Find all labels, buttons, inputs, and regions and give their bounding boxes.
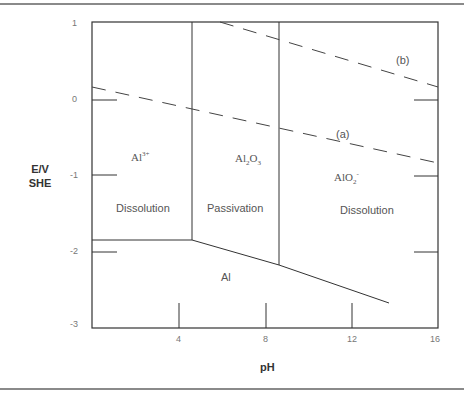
y-tick-label-minus1: -1 bbox=[70, 170, 78, 180]
y-axis-title-line1: E/V bbox=[25, 162, 55, 176]
label-al2o3: Al2O3 bbox=[235, 152, 261, 167]
y-tick-label-minus2: -2 bbox=[70, 246, 78, 256]
label-dissolution-right: Dissolution bbox=[340, 204, 394, 216]
label-dissolution-left: Dissolution bbox=[116, 202, 170, 214]
y-tick-label-0: 0 bbox=[72, 94, 77, 104]
label-line-a: (a) bbox=[336, 128, 349, 140]
alo2-charge: - bbox=[356, 170, 358, 178]
x-tick-label-8: 8 bbox=[263, 334, 268, 344]
y-tick-label-minus3: -3 bbox=[70, 319, 78, 329]
y-axis-title-line2: SHE bbox=[25, 176, 55, 190]
al3-charge: 3+ bbox=[142, 150, 149, 158]
label-passivation: Passivation bbox=[207, 202, 263, 214]
label-alo2minus: AlO2- bbox=[334, 170, 359, 186]
label-al: Al bbox=[221, 271, 231, 283]
x-tick-label-12: 12 bbox=[347, 334, 357, 344]
x-axis-title: pH bbox=[260, 360, 275, 374]
al2o3-sub2: 3 bbox=[257, 159, 261, 167]
plot-frame bbox=[92, 22, 438, 328]
al2o3-al: Al bbox=[235, 152, 246, 164]
y-tick-label-1: 1 bbox=[72, 18, 77, 28]
alo2-base: AlO bbox=[334, 171, 353, 183]
x-tick-label-4: 4 bbox=[176, 334, 181, 344]
y-axis-title: E/V SHE bbox=[25, 162, 55, 190]
pourbaix-diagram bbox=[0, 0, 464, 398]
alo2-sub: 2 bbox=[353, 178, 357, 186]
label-al3plus: Al3+ bbox=[131, 150, 149, 163]
label-line-b: (b) bbox=[396, 54, 409, 66]
x-tick-label-16: 16 bbox=[430, 334, 440, 344]
al3-base: Al bbox=[131, 151, 142, 163]
